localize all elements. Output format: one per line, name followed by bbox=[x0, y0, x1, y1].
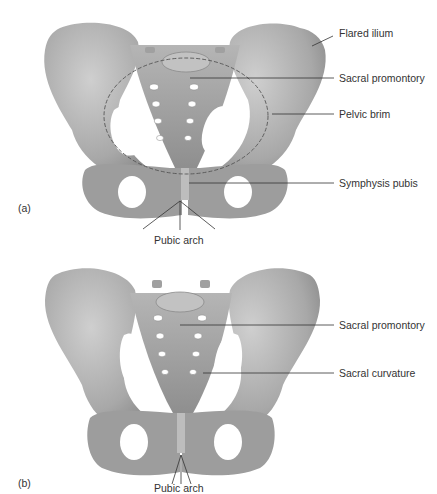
panel-letter-b: (b) bbox=[18, 477, 31, 489]
label-sacral-promontory: Sacral promontory bbox=[339, 72, 425, 84]
label-sacral-curvature: Sacral curvature bbox=[339, 367, 415, 379]
label-pubic-arch: Pubic arch bbox=[154, 482, 204, 494]
label-sacral-promontory: Sacral promontory bbox=[339, 319, 425, 331]
panel-a-female-pelvis: Flared ilium Sacral promontory Pelvic br… bbox=[0, 0, 437, 250]
panel-b-male-pelvis: Sacral promontory Sacral curvature Pubic… bbox=[0, 250, 437, 494]
panel-letter-a: (a) bbox=[18, 202, 31, 214]
label-pelvic-brim: Pelvic brim bbox=[339, 108, 390, 120]
label-flared-ilium: Flared ilium bbox=[339, 27, 393, 39]
label-symphysis-pubis: Symphysis pubis bbox=[339, 177, 418, 189]
label-pubic-arch: Pubic arch bbox=[154, 234, 204, 246]
